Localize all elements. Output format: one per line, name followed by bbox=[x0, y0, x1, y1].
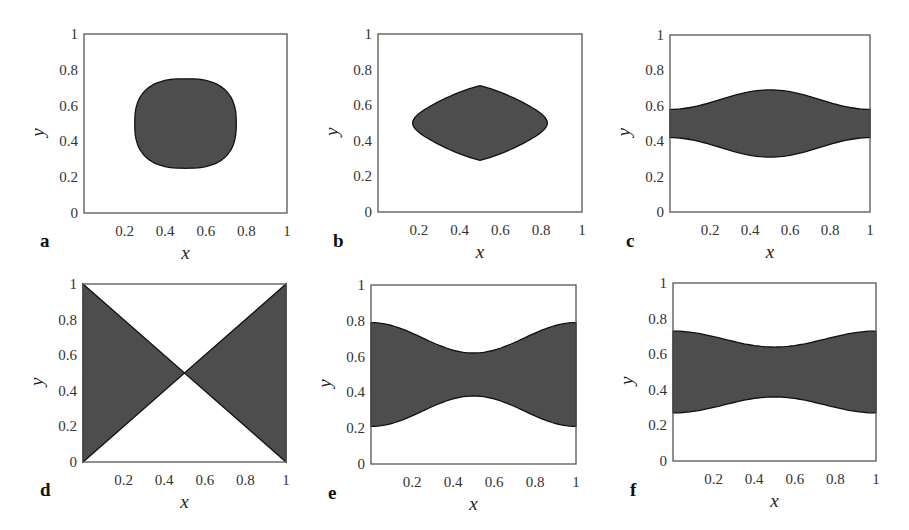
y-tick-label: 0.2 bbox=[353, 168, 372, 184]
panel-a: 00.20.40.60.810.20.40.60.81xya bbox=[27, 26, 291, 263]
y-tick-label: 0.6 bbox=[648, 346, 667, 362]
y-axis-label: y bbox=[321, 127, 342, 138]
y-axis-label: y bbox=[26, 377, 47, 388]
y-tick-label: 0 bbox=[365, 204, 373, 220]
y-tick-label: 0.2 bbox=[648, 417, 667, 433]
x-tick-label: 0.2 bbox=[701, 222, 720, 238]
y-axis-label: y bbox=[27, 128, 48, 139]
panel-b: 00.20.40.60.810.20.40.60.81xyb bbox=[321, 26, 586, 262]
x-axis-label: x bbox=[765, 241, 775, 262]
y-tick-label: 0.4 bbox=[645, 133, 664, 149]
shaded-region bbox=[670, 90, 870, 157]
y-axis-label: y bbox=[616, 376, 637, 387]
y-tick-label: 0.4 bbox=[346, 384, 365, 400]
panel-letter: a bbox=[40, 230, 50, 251]
y-tick-label: 0 bbox=[660, 453, 668, 469]
x-tick-label: 1 bbox=[283, 223, 291, 239]
panel-c: 00.20.40.60.810.20.40.60.81xyc bbox=[613, 27, 874, 262]
y-tick-label: 1 bbox=[657, 27, 665, 43]
y-tick-label: 1 bbox=[71, 26, 79, 42]
panel-letter: d bbox=[40, 479, 51, 500]
x-tick-label: 0.8 bbox=[821, 222, 840, 238]
x-tick-label: 0.8 bbox=[826, 471, 845, 487]
x-tick-label: 0.6 bbox=[196, 223, 215, 239]
x-tick-label: 1 bbox=[572, 474, 580, 490]
shaded-region bbox=[83, 284, 286, 462]
x-tick-label: 0.6 bbox=[195, 472, 214, 488]
x-tick-label: 0.6 bbox=[491, 222, 510, 238]
y-tick-label: 0.8 bbox=[58, 312, 77, 328]
x-axis-label: x bbox=[475, 241, 485, 262]
y-tick-label: 0.2 bbox=[58, 418, 77, 434]
x-tick-label: 0.4 bbox=[155, 472, 174, 488]
panel-letter: e bbox=[328, 482, 336, 503]
y-tick-label: 0.8 bbox=[59, 62, 78, 78]
x-tick-label: 0.8 bbox=[237, 223, 256, 239]
x-axis-label: x bbox=[468, 493, 478, 514]
y-tick-label: 0.2 bbox=[346, 420, 365, 436]
y-tick-label: 0.2 bbox=[645, 169, 664, 185]
y-tick-label: 0.6 bbox=[58, 347, 77, 363]
x-tick-label: 0.8 bbox=[236, 472, 255, 488]
x-tick-label: 0.4 bbox=[450, 222, 469, 238]
y-tick-label: 1 bbox=[660, 275, 668, 291]
y-tick-label: 0.4 bbox=[58, 383, 77, 399]
figure-canvas: 00.20.40.60.810.20.40.60.81xya00.20.40.6… bbox=[0, 0, 909, 530]
x-tick-label: 1 bbox=[578, 222, 586, 238]
x-axis-label: x bbox=[769, 490, 779, 511]
x-tick-label: 0.2 bbox=[403, 474, 422, 490]
y-tick-label: 0 bbox=[70, 454, 78, 470]
x-tick-label: 0.4 bbox=[156, 223, 175, 239]
y-tick-label: 0.4 bbox=[648, 382, 667, 398]
x-tick-label: 0.8 bbox=[526, 474, 545, 490]
y-tick-label: 0.6 bbox=[645, 98, 664, 114]
y-tick-label: 1 bbox=[70, 276, 78, 292]
x-tick-label: 1 bbox=[872, 471, 880, 487]
x-tick-label: 0.2 bbox=[704, 471, 723, 487]
panel-letter: f bbox=[630, 479, 637, 500]
x-tick-label: 0.6 bbox=[785, 471, 804, 487]
y-tick-label: 0.8 bbox=[353, 62, 372, 78]
x-tick-label: 0.8 bbox=[532, 222, 551, 238]
x-tick-label: 1 bbox=[866, 222, 874, 238]
y-tick-label: 0 bbox=[657, 204, 665, 220]
x-tick-label: 0.2 bbox=[115, 223, 134, 239]
y-tick-label: 0.6 bbox=[346, 349, 365, 365]
y-tick-label: 0 bbox=[358, 456, 366, 472]
shaded-region bbox=[673, 331, 876, 413]
x-tick-label: 0.2 bbox=[409, 222, 428, 238]
panel-f: 00.20.40.60.810.20.40.60.81xyf bbox=[616, 275, 880, 511]
x-tick-label: 0.4 bbox=[745, 471, 764, 487]
y-tick-label: 0.2 bbox=[59, 169, 78, 185]
panel-letter: b bbox=[333, 230, 344, 251]
y-tick-label: 1 bbox=[358, 277, 366, 293]
y-tick-label: 0.8 bbox=[346, 313, 365, 329]
y-tick-label: 0.8 bbox=[648, 311, 667, 327]
y-axis-label: y bbox=[314, 379, 335, 390]
y-tick-label: 0 bbox=[71, 205, 79, 221]
y-tick-label: 0.6 bbox=[353, 97, 372, 113]
shaded-region bbox=[371, 323, 576, 427]
panel-letter: c bbox=[626, 230, 634, 251]
shaded-region bbox=[413, 86, 548, 161]
x-tick-label: 0.6 bbox=[781, 222, 800, 238]
panel-d: 00.20.40.60.810.20.40.60.81xyd bbox=[26, 276, 290, 512]
y-tick-label: 0.6 bbox=[59, 98, 78, 114]
x-tick-label: 0.4 bbox=[444, 474, 463, 490]
x-axis-label: x bbox=[180, 242, 190, 263]
x-tick-label: 0.6 bbox=[485, 474, 504, 490]
x-tick-label: 0.2 bbox=[114, 472, 133, 488]
x-tick-label: 1 bbox=[282, 472, 290, 488]
panel-e: 00.20.40.60.810.20.40.60.81xye bbox=[314, 277, 580, 514]
shaded-region bbox=[135, 79, 237, 169]
x-axis-label: x bbox=[179, 491, 189, 512]
y-tick-label: 1 bbox=[365, 26, 373, 42]
x-tick-label: 0.4 bbox=[741, 222, 760, 238]
y-axis-label: y bbox=[613, 128, 634, 139]
y-tick-label: 0.4 bbox=[353, 133, 372, 149]
y-tick-label: 0.8 bbox=[645, 62, 664, 78]
y-tick-label: 0.4 bbox=[59, 133, 78, 149]
